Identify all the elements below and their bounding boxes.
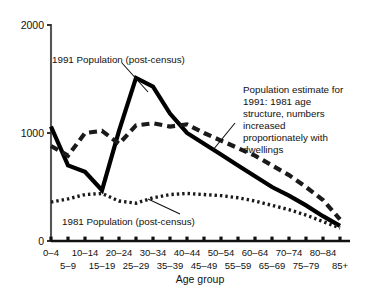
y-tick-label-1000: 1000 [21,127,45,139]
annotation-1991-estimate-line-4: proportionately with [243,132,328,143]
x-label-bottom-9: 45–49 [191,260,217,271]
x-label-top-12: 60–64 [242,247,268,258]
x-tick-8 [185,237,188,241]
x-label-bottom-15: 75–79 [293,260,319,271]
x-tick-10 [219,237,222,241]
annotation-1991-estimate-line-0: Population estimate for [243,84,344,95]
x-label-top-4: 20–24 [106,247,132,258]
x-tick-6 [151,237,154,241]
x-tick-13 [270,237,273,241]
annotation-1981-postcensus: 1981 Population (post-census) [62,216,195,227]
x-tick-14 [287,237,290,241]
x-tick-7 [168,237,171,241]
x-tick-15 [304,237,307,241]
x-tick-0 [49,237,52,241]
annotation-1991-postcensus: 1991 Population (post-census) [52,54,185,65]
x-axis-labels-row-top: 0–410–1420–2430–3440–4450–5460–6470–7480… [43,247,336,258]
x-tick-9 [202,237,205,241]
x-label-bottom-11: 55–59 [225,260,251,271]
leader-line-1981-postcensus [148,199,180,214]
chart-container: 2000 1000 0 0–410–1420–2430–3440–4450–54… [0,0,372,297]
x-axis-labels-row-bottom: 5–915–1925–2935–3945–4955–5965–6975–7985… [60,260,348,271]
x-tick-2 [83,237,86,241]
y-tick-label-2000: 2000 [21,19,45,31]
x-axis-title: Age group [176,273,225,285]
x-tick-17 [338,237,341,241]
x-tick-16 [321,237,324,241]
x-tick-12 [253,237,256,241]
x-label-bottom-17: 85+ [332,260,349,271]
annotation-1991-postcensus-line-0: 1991 Population (post-census) [52,54,185,65]
x-label-top-8: 40–44 [174,247,200,258]
y-tick-label-0: 0 [38,235,44,247]
annotation-1991-estimate-line-5: dwellings [243,144,283,155]
y-axis-tick-labels: 2000 1000 0 [21,19,45,247]
x-label-bottom-5: 25–29 [123,260,149,271]
x-label-top-14: 70–74 [276,247,302,258]
annotation-1991-estimate: Population estimate for 1991: 1981 age s… [243,84,344,155]
x-label-top-0: 0–4 [43,247,59,258]
x-label-bottom-13: 65–69 [259,260,285,271]
annotation-1991-estimate-line-2: structure, numbers [243,108,325,119]
x-tick-11 [236,237,239,241]
x-label-top-2: 10–14 [72,247,98,258]
annotation-1991-estimate-line-3: increased [243,120,285,131]
x-tick-4 [117,237,120,241]
x-label-top-10: 50–54 [208,247,234,258]
annotation-1981-postcensus-line-0: 1981 Population (post-census) [62,216,195,227]
x-label-bottom-1: 5–9 [60,260,76,271]
x-label-top-16: 80–84 [310,247,336,258]
x-label-top-6: 30–34 [140,247,166,258]
x-label-bottom-3: 15–19 [89,260,115,271]
annotation-1991-estimate-line-1: 1991: 1981 age [243,96,312,107]
x-label-bottom-7: 35–39 [157,260,183,271]
population-age-line-chart: 2000 1000 0 0–410–1420–2430–3440–4450–54… [0,0,372,297]
x-tick-3 [100,237,103,241]
x-tick-5 [134,237,137,241]
x-tick-1 [66,237,69,241]
